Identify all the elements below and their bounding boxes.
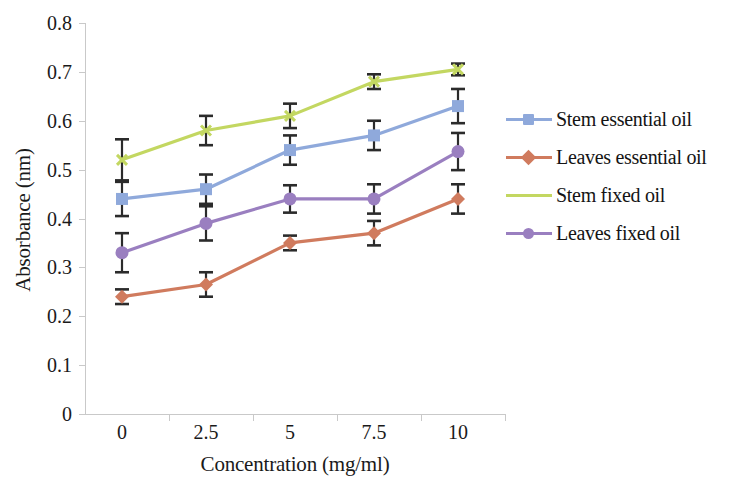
data-point-marker: [451, 192, 465, 206]
data-point-marker: [284, 144, 296, 156]
legend-swatch-icon: [506, 187, 552, 203]
legend-swatch-icon: [506, 149, 552, 165]
legend-item-4[interactable]: Leaves fixed oil: [506, 214, 738, 252]
legend-item-label: Stem essential oil: [556, 108, 692, 131]
legend-swatch-icon: [506, 225, 552, 241]
legend-item-2[interactable]: Leaves essential oil: [506, 138, 738, 176]
data-point-marker: [367, 226, 381, 240]
chart-figure: Absorbance (nm) Concentration (mg/ml) 00…: [0, 0, 740, 483]
legend-item-label: Leaves essential oil: [556, 146, 707, 169]
data-point-marker: [452, 145, 465, 158]
data-point-marker: [368, 129, 380, 141]
legend: Stem essential oilLeaves essential oilSt…: [506, 100, 738, 252]
legend-swatch-icon: [506, 111, 552, 127]
legend-item-1[interactable]: Stem essential oil: [506, 100, 738, 138]
data-point-marker: [368, 192, 381, 205]
data-point-marker: [200, 217, 213, 230]
data-point-marker: [199, 277, 213, 291]
data-point-marker: [116, 246, 129, 259]
legend-item-3[interactable]: Stem fixed oil: [506, 176, 738, 214]
data-point-marker: [452, 100, 464, 112]
data-point-marker: [116, 193, 128, 205]
data-point-marker: [284, 192, 297, 205]
data-point-marker: [115, 290, 129, 304]
data-point-marker: [200, 183, 212, 195]
legend-item-label: Leaves fixed oil: [556, 222, 680, 245]
data-point-marker: [283, 236, 297, 250]
legend-item-label: Stem fixed oil: [556, 184, 665, 207]
